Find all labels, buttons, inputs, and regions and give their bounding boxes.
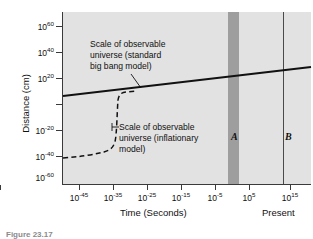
figure-caption: Figure 23.17 (6, 230, 53, 239)
marker-label-a: A (231, 131, 238, 142)
curves-layer (0, 0, 313, 239)
x-axis-title: Time (Seconds) (120, 207, 187, 218)
standard-label-leader-line (131, 74, 141, 88)
present-label: Present (262, 207, 295, 218)
y-axis-title: Distance (cm) (20, 49, 31, 159)
inflationary-model-annotation: Scale of observable universe (inflationa… (119, 122, 198, 155)
figure-container: 1060 1040 1020 10-20 10-40 10-60 10-45 1… (0, 0, 313, 239)
marker-label-b: B (285, 131, 292, 142)
standard-model-annotation: Scale of observable universe (standard b… (90, 39, 165, 72)
